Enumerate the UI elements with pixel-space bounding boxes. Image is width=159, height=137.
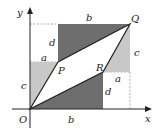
y-axis-arrow-icon	[27, 7, 33, 14]
point-R-label: R	[95, 62, 104, 73]
right-c-label: c	[134, 47, 140, 58]
x-axis-arrow-icon	[145, 106, 152, 112]
x-axis-label: x	[145, 113, 151, 124]
left-c-label: c	[21, 80, 27, 91]
top-a-label: a	[41, 52, 47, 63]
point-P-label: P	[57, 65, 65, 76]
diagram-canvas: y x O P Q R b b d d c c a a	[0, 0, 159, 137]
right-d-label: d	[105, 86, 111, 97]
y-axis-label: y	[16, 7, 23, 18]
right-a-label: a	[115, 73, 121, 84]
parallelogram-diagram: y x O P Q R b b d d c c a a	[0, 0, 159, 137]
left-d-label: d	[49, 37, 55, 48]
point-Q-label: Q	[131, 13, 139, 24]
bottom-b-label: b	[68, 114, 74, 125]
point-O-label: O	[19, 114, 27, 125]
top-b-label: b	[86, 12, 92, 23]
